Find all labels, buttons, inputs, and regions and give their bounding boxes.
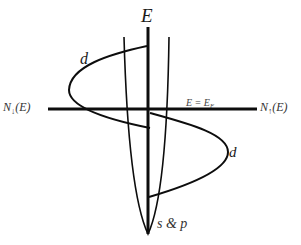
d-band-lower-label: d: [229, 145, 237, 160]
spin-up-dos-prefix: N: [260, 100, 268, 114]
spin-down-dos-suffix: (E): [15, 100, 30, 114]
spin-down-dos-label: N↓(E): [3, 101, 31, 116]
dos-diagram: [0, 0, 301, 245]
energy-axis-label: E: [141, 6, 153, 25]
spin-down-dos-prefix: N: [3, 100, 11, 114]
d-band-upper-label: d: [80, 51, 88, 67]
spin-up-dos-label: N↑(E): [260, 101, 288, 116]
fermi-level-label: E = EF: [186, 98, 214, 109]
spin-up-dos-suffix: (E): [272, 100, 287, 114]
sp-band-label: s & p: [157, 217, 187, 231]
fermi-level-subscript: F: [210, 102, 214, 109]
fermi-level-lhs: E = E: [186, 97, 210, 108]
